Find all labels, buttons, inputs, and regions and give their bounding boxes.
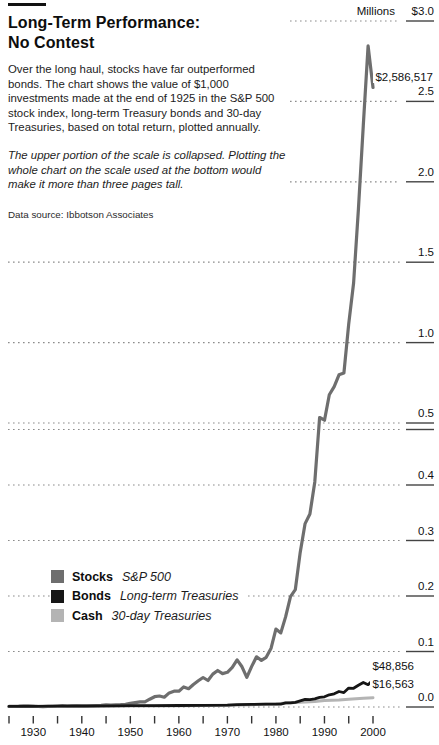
- y-tick-label: 2.0: [416, 166, 434, 178]
- y-axis-unit-label: Millions: [357, 5, 395, 17]
- data-source-credit: Data source: Ibbotson Associates: [8, 209, 289, 220]
- legend: Stocks S&P 500 Bonds Long-term Treasurie…: [51, 567, 246, 626]
- y-tick-label: 2.5: [416, 85, 434, 97]
- legend-item-bonds: Bonds Long-term Treasuries: [51, 587, 246, 607]
- chart-title-line1: Long-Term Performance:: [8, 13, 289, 33]
- x-year-label: 1990: [312, 726, 338, 738]
- cash-swatch-icon: [51, 609, 64, 622]
- bonds-swatch-icon: [51, 590, 64, 603]
- chart-intro-text: Over the long haul, stocks have far outp…: [8, 62, 289, 135]
- chart-title: Long-Term Performance: No Contest: [8, 13, 289, 53]
- legend-stocks-desc: S&P 500: [122, 570, 171, 584]
- legend-bonds-desc: Long-term Treasuries: [120, 589, 239, 603]
- y-tick-label: 0.2: [416, 580, 434, 592]
- y-tick-label: 0.1: [416, 636, 434, 648]
- chart-title-line2: No Contest: [8, 33, 289, 53]
- x-year-label: 1970: [215, 726, 241, 738]
- x-year-label: 1930: [20, 726, 46, 738]
- legend-bonds-name: Bonds: [72, 589, 111, 603]
- stocks-swatch-icon: [51, 570, 64, 583]
- legend-cash-desc: 30-day Treasuries: [112, 609, 212, 623]
- bonds-end-value-label: $48,856: [370, 660, 414, 672]
- y-tick-label: 0.3: [416, 525, 434, 537]
- stocks-end-value-label: $2,586,517: [373, 71, 433, 83]
- legend-item-stocks: Stocks S&P 500: [51, 567, 179, 587]
- legend-item-cash: Cash 30-day Treasuries: [51, 606, 219, 626]
- header-rule: [8, 3, 46, 6]
- y-tick-label: 0.0: [416, 691, 434, 703]
- y-tick-label: 1.0: [416, 327, 434, 339]
- scale-break-note: The upper portion of the scale is collap…: [8, 148, 289, 192]
- chart-header: Long-Term Performance: No Contest Over t…: [8, 0, 289, 220]
- y-tick-label: 0.5: [416, 407, 434, 419]
- cash-end-value-label: $16,563: [370, 678, 414, 690]
- legend-stocks-name: Stocks: [72, 570, 113, 584]
- x-year-label: 2000: [360, 726, 386, 738]
- y-tick-label: $3.0: [410, 5, 434, 17]
- y-tick-label: 1.5: [416, 246, 434, 258]
- y-tick-label: 0.4: [416, 469, 434, 481]
- legend-cash-name: Cash: [72, 609, 103, 623]
- x-year-label: 1940: [69, 726, 95, 738]
- x-year-label: 1950: [118, 726, 144, 738]
- x-year-label: 1980: [263, 726, 289, 738]
- x-year-label: 1960: [166, 726, 192, 738]
